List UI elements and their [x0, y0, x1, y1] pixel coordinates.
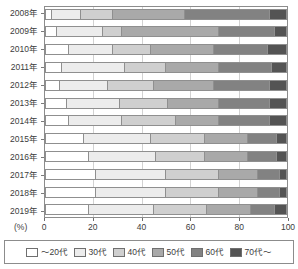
bar-segment [69, 44, 113, 55]
bar-segment [154, 204, 207, 215]
bar-row [45, 62, 287, 73]
legend-swatch-icon [152, 248, 164, 257]
bar-segment [45, 151, 89, 162]
bar-segment [52, 9, 81, 20]
bar-segment [45, 26, 57, 37]
bar-segment [168, 98, 219, 109]
bar-segment [166, 187, 219, 198]
bar-segment [81, 9, 112, 20]
bar-segment [166, 62, 219, 73]
y-axis-labels: 2008年2009年2010年2011年2012年2013年2014年2015年… [0, 6, 42, 218]
legend-swatch-icon [26, 248, 38, 257]
bar-segment [45, 9, 52, 20]
bar-segment [89, 151, 157, 162]
legend-label: 60代 [205, 247, 223, 257]
bar-segment [89, 204, 154, 215]
bar-segment [275, 204, 287, 215]
bar-segment [219, 98, 270, 109]
bar-segment [270, 80, 287, 91]
legend-item[interactable]: 70代～ [230, 247, 272, 257]
bar-segment [45, 204, 89, 215]
bar-segment [67, 98, 120, 109]
bar-segment [277, 151, 287, 162]
y-axis-tick-label: 2013年 [0, 98, 42, 109]
bar-segment [219, 115, 270, 126]
bar-segment [96, 169, 166, 180]
legend-item[interactable]: 60代 [191, 247, 224, 257]
bar-row [45, 9, 287, 20]
legend-swatch-icon [113, 248, 125, 257]
legend-label: 40代 [128, 247, 146, 257]
bar-segment [207, 204, 251, 215]
bar-segment [122, 115, 175, 126]
bar-segment [154, 80, 215, 91]
legend-swatch-icon [74, 248, 86, 257]
x-axis-tick-label: 20 [88, 221, 97, 233]
y-axis-tick-label: 2014年 [0, 116, 42, 127]
bar-segment [219, 187, 258, 198]
x-axis-tick-label: 60 [186, 221, 195, 233]
bar-segment [219, 169, 258, 180]
bar-segment [270, 9, 287, 20]
bar-segment [185, 9, 270, 20]
bar-segment [248, 151, 277, 162]
y-axis-tick-label: 2010年 [0, 44, 42, 55]
bar-segment [45, 44, 69, 55]
bar-segment [280, 169, 287, 180]
y-axis-tick-label: 2016年 [0, 152, 42, 163]
x-axis-tick-label: 0 [42, 221, 47, 233]
legend-item[interactable]: 50代 [152, 247, 185, 257]
bar-segment [122, 26, 219, 37]
legend-item[interactable]: 40代 [113, 247, 146, 257]
bar-segment [96, 187, 166, 198]
bar-segment [57, 26, 103, 37]
legend-label: 70代～ [244, 247, 271, 257]
bar-segment [156, 151, 204, 162]
stacked-bar-chart: 2008年2009年2010年2011年2012年2013年2014年2015年… [0, 0, 298, 269]
bar-segment [258, 169, 280, 180]
legend-item[interactable]: 30代 [74, 247, 107, 257]
bar-segment [205, 133, 249, 144]
bar-segment [45, 80, 60, 91]
x-axis-tick-label: 100 [281, 221, 295, 233]
plot-area [44, 6, 288, 218]
bar-row [45, 169, 287, 180]
legend-item[interactable]: ～20代 [26, 247, 68, 257]
bar-segment [108, 80, 154, 91]
bar-segment [166, 169, 219, 180]
x-axis-tick-label: 80 [234, 221, 243, 233]
bar-segment [214, 80, 270, 91]
x-axis-tick-label: 40 [137, 221, 146, 233]
bar-rows [45, 7, 287, 217]
bar-segment [84, 133, 152, 144]
bar-row [45, 98, 287, 109]
bar-segment [268, 44, 287, 55]
bar-row [45, 44, 287, 55]
bar-segment [270, 115, 287, 126]
bar-segment [275, 26, 287, 37]
bar-row [45, 80, 287, 91]
legend-label: ～20代 [41, 247, 68, 257]
bar-segment [258, 187, 280, 198]
legend-label: 50代 [167, 247, 185, 257]
y-axis-tick-label: 2015年 [0, 134, 42, 145]
bar-row [45, 133, 287, 144]
bar-segment [277, 133, 287, 144]
bar-row [45, 26, 287, 37]
bar-segment [125, 62, 166, 73]
bar-segment [113, 44, 152, 55]
bar-segment [45, 169, 96, 180]
bar-segment [62, 62, 125, 73]
bar-segment [248, 133, 277, 144]
bar-segment [270, 98, 287, 109]
bar-segment [45, 133, 84, 144]
bar-segment [176, 115, 220, 126]
legend-swatch-icon [191, 248, 203, 257]
bar-segment [113, 9, 186, 20]
bar-row [45, 204, 287, 215]
bar-segment [120, 98, 168, 109]
x-axis-labels: 020406080100 [0, 221, 298, 233]
y-axis-tick-label: 2008年 [0, 8, 42, 19]
bar-segment [151, 133, 204, 144]
bar-row [45, 151, 287, 162]
